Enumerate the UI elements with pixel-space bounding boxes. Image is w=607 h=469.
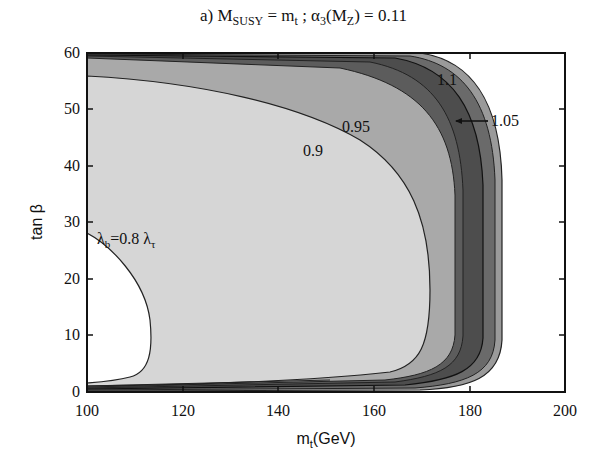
x-axis-label: mt(GeV)	[296, 430, 355, 450]
svg-text:10: 10	[64, 326, 80, 343]
annotation-1.05: 1.05	[491, 112, 519, 129]
svg-text:60: 60	[64, 44, 80, 61]
y-axis-label: tan β	[28, 204, 45, 240]
svg-text:180: 180	[458, 402, 482, 419]
figure: a) MSUSY = mt ; α3(MZ) = 0.11	[0, 0, 607, 469]
annotation-1.1: 1.1	[437, 71, 457, 88]
plot-svg: 100 120 140 160 180 200 0 10 20 30 40 50…	[0, 0, 607, 469]
svg-text:200: 200	[553, 402, 577, 419]
svg-text:40: 40	[64, 157, 80, 174]
svg-text:140: 140	[266, 402, 290, 419]
x-tick-labels: 100 120 140 160 180 200	[75, 402, 577, 419]
svg-text:30: 30	[64, 213, 80, 230]
y-tick-labels: 0 10 20 30 40 50 60	[64, 44, 80, 400]
svg-text:160: 160	[362, 402, 386, 419]
plot-area	[87, 53, 502, 391]
svg-text:20: 20	[64, 270, 80, 287]
svg-text:0: 0	[72, 383, 80, 400]
svg-text:120: 120	[171, 402, 195, 419]
annotation-0.95: 0.95	[342, 118, 370, 135]
annotation-0.9: 0.9	[303, 142, 323, 159]
svg-text:100: 100	[75, 402, 99, 419]
svg-text:50: 50	[64, 100, 80, 117]
